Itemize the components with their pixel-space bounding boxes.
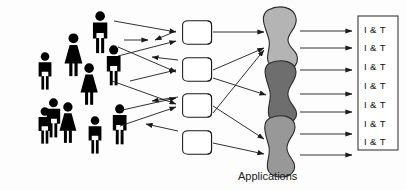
arrow-funnel-to-person: [146, 124, 178, 131]
it-row-label: I & T: [364, 24, 386, 35]
funnel-shape: [183, 94, 212, 117]
arrow-person-to-funnel: [118, 47, 176, 72]
it-row-label: I & T: [364, 136, 386, 147]
it-row-label: I & T: [364, 118, 386, 129]
arrow-person-to-funnel: [118, 98, 176, 111]
it-row-label: I & T: [364, 99, 386, 110]
person-figure-male: [47, 98, 60, 137]
arrows-funnels-to-applications: [213, 32, 266, 154]
person-figure-female: [80, 63, 97, 104]
person-figure-male: [93, 11, 107, 53]
it-row-label: I & T: [364, 80, 386, 91]
applications-label: Applications: [238, 170, 298, 182]
funnel-shape: [183, 58, 212, 81]
funnel-shape: [183, 21, 212, 44]
funnels-group: [183, 21, 212, 154]
funnel-shape: [183, 131, 212, 154]
diagram-canvas: Applications I & T I & T I & T I & T I &…: [0, 0, 407, 190]
application-blob: [265, 116, 295, 177]
arrow-person-to-funnel: [118, 41, 176, 56]
arrow-funnel-to-application: [213, 143, 264, 154]
it-row-label: I & T: [364, 42, 386, 53]
arrow-funnel-to-application: [213, 106, 264, 139]
arrow-funnel-to-person: [152, 57, 178, 60]
person-figure-female: [59, 102, 76, 143]
applications-group: [263, 7, 297, 177]
arrow-funnel-to-person: [155, 31, 176, 40]
it-row-label: I & T: [364, 61, 386, 72]
person-figure-female: [65, 33, 83, 76]
arrows-applications-to-it: [300, 31, 352, 155]
arrows-people-to-funnels: [112, 21, 178, 131]
person-figure-male: [39, 52, 52, 89]
arrow-person-to-funnel: [120, 107, 176, 126]
it-box: I & T I & T I & T I & T I & T I & T I & …: [358, 16, 398, 150]
diagram-svg: Applications I & T I & T I & T I & T I &…: [0, 0, 407, 190]
application-blob: [265, 61, 296, 124]
arrow-person-to-funnel: [130, 70, 176, 81]
arrow-person-to-funnel: [114, 21, 176, 32]
people-group: [39, 11, 127, 153]
person-figure-male: [107, 45, 121, 85]
person-figure-male: [89, 116, 102, 153]
